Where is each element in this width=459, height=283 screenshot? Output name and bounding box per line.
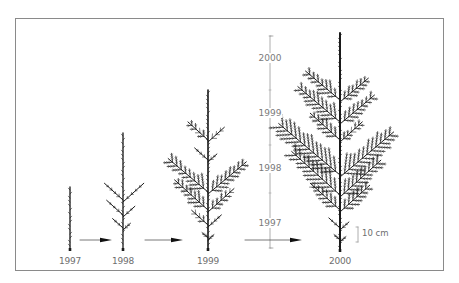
stem-base bbox=[339, 249, 342, 252]
branch bbox=[123, 183, 144, 202]
tree-1998 bbox=[104, 133, 143, 251]
stem-base bbox=[122, 248, 125, 251]
year-label-1997: 1997 bbox=[59, 256, 81, 266]
growth-arrow-3 bbox=[245, 238, 302, 242]
ten-cm-scale-bar bbox=[356, 227, 358, 242]
tree-1999 bbox=[164, 90, 249, 251]
year-label-1999: 1999 bbox=[197, 256, 219, 266]
branch bbox=[365, 167, 366, 175]
branch bbox=[123, 223, 130, 230]
branch bbox=[369, 162, 370, 171]
growth-arrow-1 bbox=[80, 238, 112, 242]
growth-arrows bbox=[80, 238, 302, 242]
branch bbox=[208, 162, 246, 194]
arrow-head-icon bbox=[171, 238, 183, 242]
branch bbox=[208, 235, 214, 240]
year-label-2000: 2000 bbox=[329, 256, 351, 266]
scale-label-1998: 1998 bbox=[258, 163, 283, 173]
scale-bar-label: 10 cm bbox=[362, 228, 388, 238]
tree-2000 bbox=[269, 33, 398, 252]
stem-base bbox=[207, 248, 210, 251]
branch bbox=[329, 218, 340, 228]
tree-1997 bbox=[68, 187, 71, 251]
branch bbox=[340, 222, 349, 230]
scale-label-1997: 1997 bbox=[258, 218, 283, 228]
arrow-head-icon bbox=[100, 238, 112, 242]
scale-label-1999: 1999 bbox=[258, 108, 283, 118]
tree-drawings bbox=[0, 0, 459, 283]
scale-label-2000: 2000 bbox=[258, 53, 283, 63]
branch bbox=[188, 122, 208, 140]
growth-arrow-2 bbox=[145, 238, 183, 242]
branch bbox=[104, 183, 123, 200]
branch bbox=[202, 233, 208, 238]
height-scale-axis bbox=[269, 36, 273, 248]
branch bbox=[113, 219, 123, 228]
branch bbox=[304, 155, 305, 164]
tree-growth-figure: 1997 1998 1999 2000 2000 1999 1998 1997 … bbox=[0, 0, 459, 283]
arrow-head-icon bbox=[290, 238, 302, 242]
stem-base bbox=[69, 248, 72, 251]
trees-group bbox=[68, 33, 398, 252]
branch bbox=[123, 206, 135, 217]
year-label-1998: 1998 bbox=[112, 256, 134, 266]
